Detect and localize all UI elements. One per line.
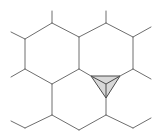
lattice-stub — [11, 69, 25, 77]
lower-hexagon-edge — [79, 115, 106, 130]
upper-right-hexagon-edge — [79, 23, 106, 37]
lattice-stub — [106, 115, 133, 128]
triangle-defect — [91, 76, 120, 98]
lattice-stub — [133, 118, 151, 128]
upper-left-hexagon-edge — [52, 69, 79, 84]
upper-left-hexagon-edge — [25, 69, 52, 84]
upper-right-hexagon-edge — [106, 23, 133, 37]
lattice-stub — [11, 32, 25, 39]
lattice-stub — [133, 27, 151, 37]
upper-right-hexagon-edge — [79, 69, 91, 76]
upper-left-hexagon-edge — [52, 23, 79, 37]
upper-right-hexagon-edge — [120, 69, 133, 76]
lattice-edges — [11, 11, 151, 130]
lattice-stub — [25, 115, 52, 128]
upper-left-hexagon-edge — [25, 23, 52, 39]
lower-hexagon-edge — [52, 115, 79, 130]
lattice-stub — [133, 69, 151, 79]
hexagonal-lattice-diagram — [0, 0, 158, 138]
lattice-stub — [11, 121, 25, 128]
